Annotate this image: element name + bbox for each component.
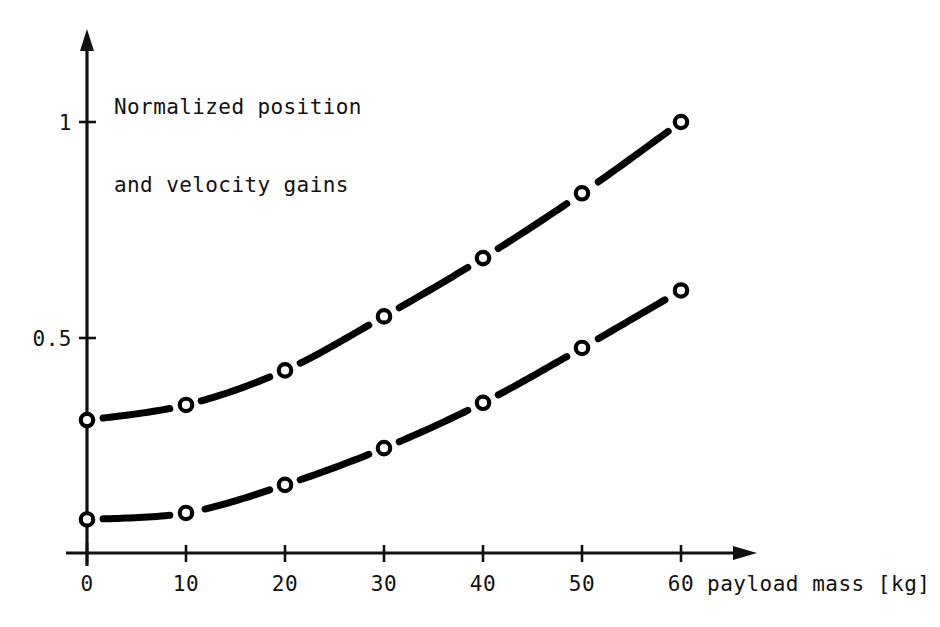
x-tick-label-40: 40 xyxy=(470,572,496,596)
data-point-marker xyxy=(675,116,687,128)
x-tick-label-0: 0 xyxy=(80,572,93,596)
data-point-marker xyxy=(675,284,687,296)
curve-position-gain xyxy=(103,131,668,418)
data-point-marker xyxy=(180,507,192,519)
y-tick-label-1: 1 xyxy=(59,111,72,135)
data-point-marker xyxy=(378,310,390,322)
x-tick-label-50: 50 xyxy=(569,572,595,596)
x-axis: 0 10 20 30 40 50 60 payload mass [kg] xyxy=(66,543,930,596)
y-axis-arrow-icon xyxy=(80,29,94,51)
data-point-marker xyxy=(180,399,192,411)
x-tick-label-20: 20 xyxy=(272,572,298,596)
y-tick-label-0-5: 0.5 xyxy=(33,327,72,351)
x-axis-arrow-icon xyxy=(733,546,757,560)
data-point-marker xyxy=(279,364,291,376)
data-point-marker xyxy=(81,414,93,426)
data-series-layer xyxy=(81,116,687,526)
data-point-marker xyxy=(576,342,588,354)
x-tick-label-60: 60 xyxy=(668,572,694,596)
x-axis-caption: payload mass [kg] xyxy=(707,572,930,596)
plot-area: 1 0.5 0 10 20 30 40 50 60 payload mass [… xyxy=(0,0,940,627)
x-tick-label-30: 30 xyxy=(371,572,397,596)
data-series-0 xyxy=(81,116,687,426)
chart-figure: Normalized position and velocity gains 1… xyxy=(0,0,940,627)
data-point-marker xyxy=(81,513,93,525)
data-point-marker xyxy=(477,252,489,264)
data-point-marker xyxy=(279,479,291,491)
data-point-marker xyxy=(576,187,588,199)
data-point-marker xyxy=(378,442,390,454)
data-point-marker xyxy=(477,397,489,409)
x-tick-label-10: 10 xyxy=(173,572,199,596)
y-axis: 1 0.5 xyxy=(33,29,96,566)
